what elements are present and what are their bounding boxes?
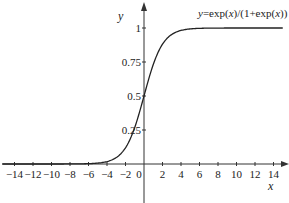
- x-tick-label: 8: [215, 168, 221, 180]
- x-tick-label: 4: [178, 168, 184, 180]
- y-axis-arrow-icon: [141, 2, 147, 11]
- x-tick-label: 2: [160, 168, 166, 180]
- y-tick-label: 0.5: [127, 90, 141, 102]
- y-axis-label: y: [117, 9, 124, 23]
- x-tick-label: 0: [136, 168, 142, 180]
- x-tick-label: −8: [64, 168, 76, 180]
- x-tick-label: −4: [101, 168, 113, 180]
- y-tick-label: 1: [136, 22, 142, 34]
- logistic-chart: −14−12−10−8−6−4−202468101214 0.250.50.75…: [0, 0, 289, 203]
- x-axis-label: x: [267, 179, 274, 193]
- x-tick-label: 12: [250, 168, 261, 180]
- x-tick-label: 6: [197, 168, 203, 180]
- x-tick-label: 10: [231, 168, 243, 180]
- x-ticks: −14−12−10−8−6−4−202468101214: [6, 162, 280, 180]
- x-tick-label: −10: [43, 168, 61, 180]
- chart-title: y=exp(x)/(1+exp(x)): [197, 7, 288, 20]
- x-tick-label: −14: [6, 168, 24, 180]
- y-ticks: 0.250.50.751: [122, 22, 146, 136]
- x-tick-label: −6: [83, 168, 95, 180]
- x-axis-arrow-icon: [281, 161, 289, 167]
- x-tick-label: −2: [120, 168, 132, 180]
- y-tick-label: 0.75: [122, 56, 142, 68]
- x-tick-label: −12: [24, 168, 41, 180]
